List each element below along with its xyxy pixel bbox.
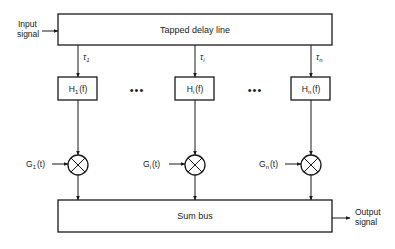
gain-label: Gn(t) — [259, 159, 278, 170]
input-label-line1: Input — [18, 19, 38, 29]
gain-label: G1(t) — [26, 159, 45, 170]
output-label-line2: signal — [355, 217, 377, 227]
input-label-line2: signal — [17, 29, 39, 39]
tapped-delay-line-label: Tapped delay line — [160, 25, 230, 35]
tau-label: τi — [200, 52, 205, 63]
ellipsis-left: ••• — [130, 84, 145, 96]
tau-label: τ1 — [83, 52, 90, 63]
multiplier-icon — [301, 155, 321, 175]
multiplier-icon — [185, 155, 205, 175]
filter-label: Hi(f) — [187, 84, 204, 95]
tap-branch: τ1H1(f)G1(t) — [26, 45, 97, 200]
output-label-line1: Output — [355, 207, 381, 217]
tap-branch: τnHn(f)Gn(t) — [259, 45, 330, 200]
sum-bus-block: Sum bus — [58, 200, 332, 232]
multiplier-icon — [68, 155, 88, 175]
tapped-delay-line-block: Tapped delay line — [58, 14, 332, 45]
gain-label: Gi(t) — [143, 159, 160, 170]
input-signal: Input signal — [17, 19, 58, 39]
tau-label: τn — [316, 52, 323, 63]
sum-bus-label: Sum bus — [177, 211, 213, 221]
tap-branches: τ1H1(f)G1(t)τiHi(f)Gi(t)τnHn(f)Gn(t) — [26, 45, 330, 200]
tap-branch: τiHi(f)Gi(t) — [143, 45, 214, 200]
tapped-delay-line-diagram: Input signal Tapped delay line τ1H1(f)G1… — [0, 0, 395, 249]
ellipsis-right: ••• — [248, 84, 263, 96]
output-signal: Output signal — [332, 207, 381, 227]
